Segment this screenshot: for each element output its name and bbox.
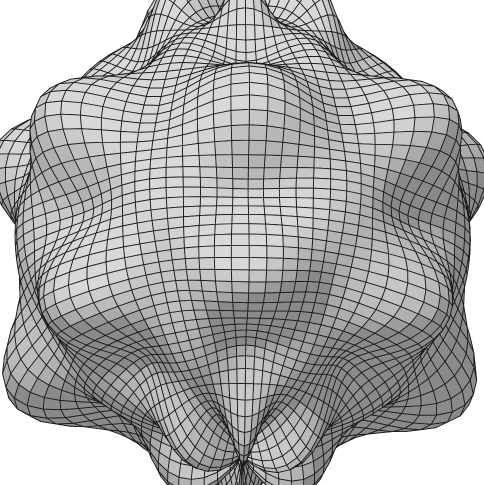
surface-plot-canvas[interactable] xyxy=(0,0,484,485)
figure-root: Spherical harmonic wireframe surface xyxy=(0,0,484,485)
